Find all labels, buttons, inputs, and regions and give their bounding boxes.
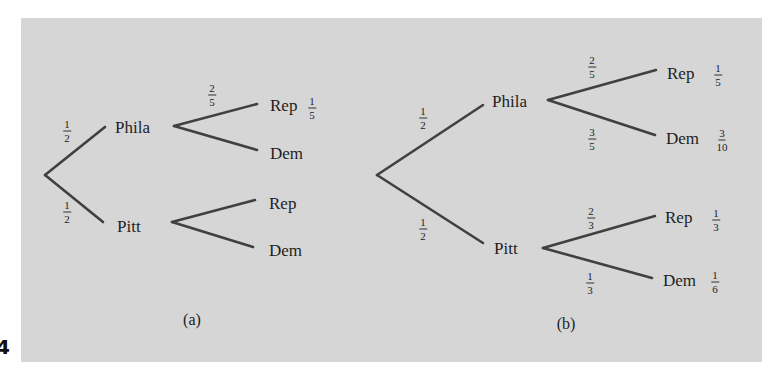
edge-a-root-phila [45, 127, 105, 175]
edge-a-pitt-rep [172, 200, 255, 222]
node-a-phila: Phila [115, 119, 150, 136]
prob-a-root-phila: 1 2 [63, 119, 71, 144]
caption-b: (b) [557, 315, 576, 333]
node-a-pitt-dem: Dem [269, 242, 302, 259]
prob-a-phila-rep: 2 5 [208, 83, 216, 108]
edge-a-pitt-dem [172, 222, 253, 247]
edge-b-phila-rep [548, 70, 656, 100]
edge-b-root-phila [377, 105, 483, 175]
prob-b-root-phila: 1 2 [419, 106, 427, 131]
node-a-phila-rep: Rep [270, 97, 297, 114]
prob-b-pitt-dem: 1 3 [586, 271, 594, 296]
node-a-phila-dem: Dem [270, 145, 303, 162]
node-b-phila: Phila [492, 93, 527, 110]
edge-b-pitt-rep [543, 216, 655, 248]
node-b-pitt-dem: Dem [663, 272, 696, 289]
prob-b-pitt-rep: 2 3 [587, 206, 595, 231]
node-b-pitt: Pitt [494, 240, 518, 257]
leaf-prob-b-pitt-dem: 1 6 [711, 270, 719, 295]
edge-b-pitt-dem [543, 248, 652, 278]
edge-a-root-pitt [45, 175, 103, 222]
node-b-phila-rep: Rep [667, 65, 694, 82]
node-b-pitt-rep: Rep [665, 209, 692, 226]
edge-a-phila-dem [174, 126, 257, 150]
caption-a: (a) [183, 311, 201, 329]
node-a-pitt-rep: Rep [269, 195, 296, 212]
prob-b-root-pitt: 1 2 [419, 217, 427, 242]
leaf-prob-b-phila-dem: 3 10 [717, 128, 728, 153]
edge-b-root-pitt [377, 175, 483, 243]
node-b-phila-dem: Dem [666, 130, 699, 147]
edge-b-phila-dem [548, 100, 655, 135]
leaf-prob-b-phila-rep: 1 5 [714, 63, 722, 88]
leaf-prob-a-phila-rep: 1 5 [308, 96, 316, 121]
tree-edges [0, 0, 770, 382]
prob-b-phila-rep: 2 5 [588, 55, 596, 80]
leaf-prob-b-pitt-rep: 1 3 [712, 208, 720, 233]
prob-a-root-pitt: 1 2 [63, 200, 71, 225]
node-a-pitt: Pitt [117, 218, 141, 235]
prob-b-phila-dem: 3 5 [588, 127, 596, 152]
tree-a-edges [45, 104, 257, 247]
